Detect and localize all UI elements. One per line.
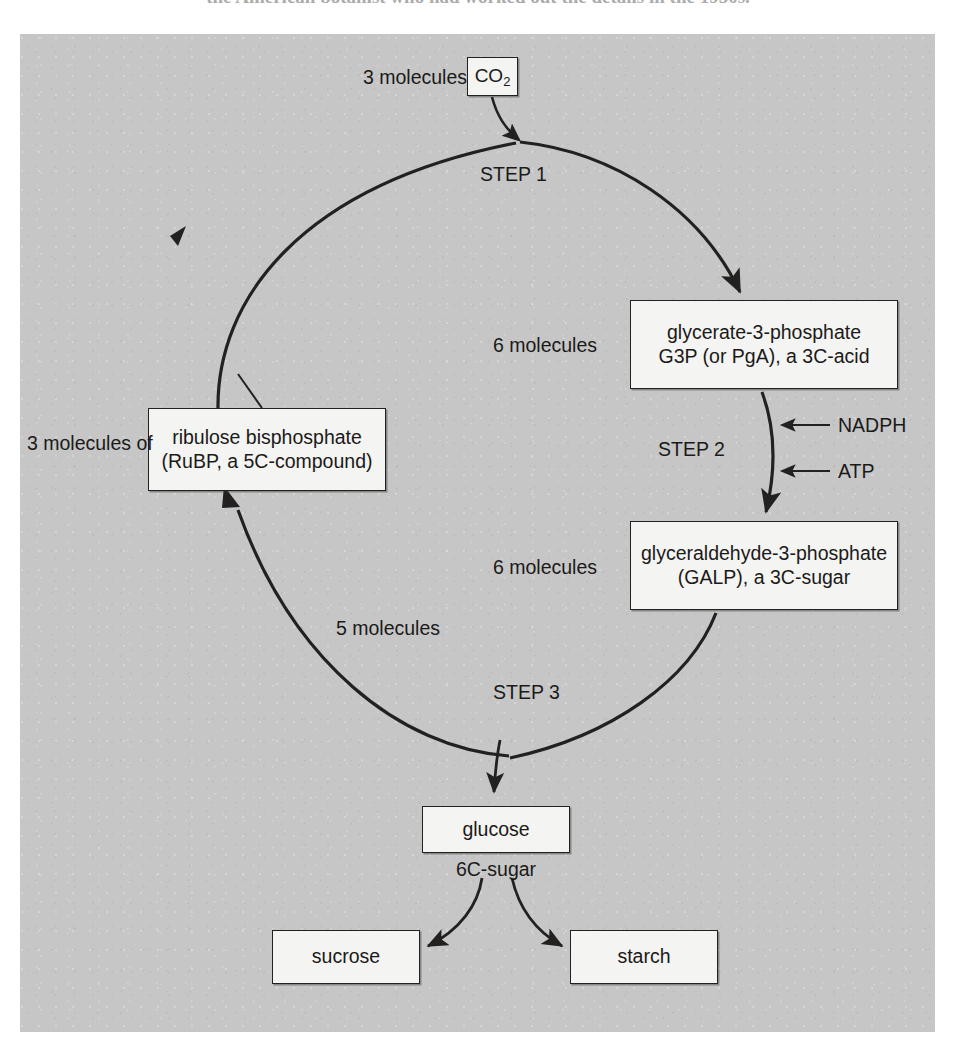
label-six-c-sugar: 6C-sugar	[443, 858, 549, 881]
galp-line-2: (GALP), a 3C-sugar	[641, 566, 887, 590]
g3p-line-2: G3P (or PgA), a 3C-acid	[659, 345, 870, 369]
node-g3p: glycerate-3-phosphate G3P (or PgA), a 3C…	[630, 300, 898, 389]
label-g3p-count: 6 molecules	[493, 334, 597, 357]
label-co2-count: 3 molecules	[363, 66, 467, 89]
node-glucose: glucose	[422, 806, 570, 853]
galp-line-1: glyceraldehyde-3-phosphate	[641, 542, 887, 566]
label-step-1: STEP 1	[480, 163, 547, 186]
g3p-line-1: glycerate-3-phosphate	[659, 321, 870, 345]
node-sucrose: sucrose	[272, 930, 420, 984]
sucrose-label: sucrose	[312, 945, 380, 969]
rubp-line-2: (RuBP, a 5C-compound)	[162, 450, 373, 474]
node-co2: CO2	[467, 57, 518, 96]
label-step-3: STEP 3	[493, 681, 560, 704]
node-rubp: ribulose bisphosphate (RuBP, a 5C-compou…	[148, 408, 386, 491]
co2-subscript: 2	[503, 73, 510, 88]
page-top-caption: the American botanist who had worked out…	[0, 0, 956, 14]
label-atp: ATP	[838, 460, 874, 483]
label-rubp-count-line-1: 3 molecules	[27, 432, 131, 454]
node-starch: starch	[570, 930, 718, 984]
node-galp: glyceraldehyde-3-phosphate (GALP), a 3C-…	[630, 521, 898, 610]
label-galp-count: 6 molecules	[493, 556, 597, 579]
co2-formula: CO	[475, 65, 504, 86]
label-five-molecules: 5 molecules	[336, 617, 440, 640]
glucose-label: glucose	[462, 818, 529, 842]
label-rubp-count: 3 molecules of	[27, 432, 139, 455]
label-nadph: NADPH	[838, 414, 906, 437]
label-step-2: STEP 2	[658, 438, 725, 461]
label-rubp-count-line-2: of	[136, 432, 152, 454]
starch-label: starch	[617, 945, 670, 969]
rubp-line-1: ribulose bisphosphate	[162, 426, 373, 450]
